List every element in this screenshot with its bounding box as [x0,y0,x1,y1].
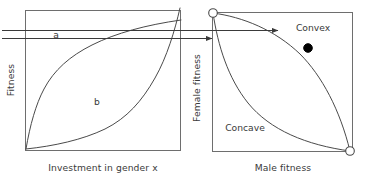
marker-convex-point [304,44,313,53]
left-panel-y-axis-label: Fitness [5,64,16,97]
right-panel-x-axis-label: Male fitness [255,162,311,173]
right-curve-convex-label: Convex [296,22,331,33]
figure-root: a b Fitness Investment in gender x Conve… [0,0,367,179]
left-curve-b-label: b [94,96,100,107]
marker-bottom-right-endpoint [346,147,355,156]
right-curve-concave-label: Concave [225,122,265,133]
left-panel-x-axis-label: Investment in gender x [48,162,158,173]
right-panel-y-axis-label: Female fitness [191,54,202,122]
left-curve-b [26,8,180,149]
mapping-arrows [2,31,278,39]
left-panel: a b Fitness Investment in gender x [5,8,181,173]
figure-canvas: a b Fitness Investment in gender x Conve… [0,0,367,179]
marker-top-left-endpoint [209,9,218,18]
right-panel: Convex Concave Female fitness Male fitne… [191,9,354,173]
